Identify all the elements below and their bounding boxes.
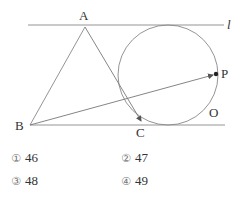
option-2[interactable]: ②47 — [121, 150, 148, 166]
segment-ac — [85, 27, 141, 121]
segment-bp — [30, 75, 213, 125]
label-c: C — [136, 125, 145, 140]
option-4-value: 49 — [135, 173, 148, 188]
option-2-value: 47 — [135, 150, 148, 165]
label-b: B — [15, 118, 24, 133]
option-1-number: ① — [11, 152, 21, 165]
label-l: l — [227, 17, 231, 32]
option-3-number: ③ — [11, 175, 21, 188]
option-4-number: ④ — [121, 175, 131, 188]
option-3-value: 48 — [25, 173, 38, 188]
geometry-figure: A B C P O l — [0, 0, 243, 140]
label-o: O — [209, 105, 218, 120]
point-p — [214, 72, 218, 76]
option-3[interactable]: ③48 — [11, 173, 38, 189]
label-p: P — [221, 66, 228, 81]
circle-o — [118, 25, 218, 125]
option-1[interactable]: ①46 — [11, 150, 38, 166]
option-1-value: 46 — [25, 150, 38, 165]
segment-ab — [30, 27, 85, 125]
option-4[interactable]: ④49 — [121, 173, 148, 189]
label-a: A — [79, 8, 89, 23]
option-2-number: ② — [121, 152, 131, 165]
